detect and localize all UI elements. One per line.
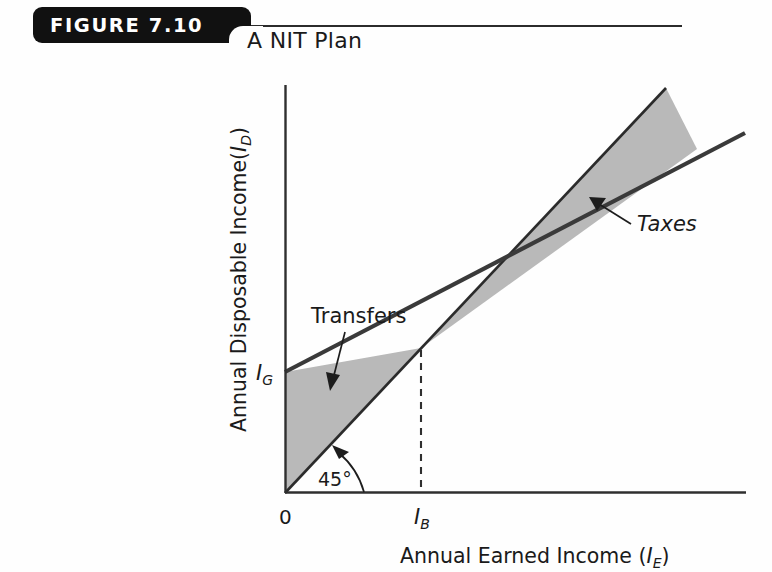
x-axis-title-sub: E (653, 555, 662, 571)
y-axis-tick-ig: IG (256, 361, 273, 388)
x-tick-sub: B (420, 516, 430, 532)
y-axis-title-close: ) (227, 127, 251, 135)
x-axis-title-close: ) (662, 544, 670, 568)
svg-text:IB: IB (414, 505, 430, 532)
svg-text:Annual Disposable Income(ID): Annual Disposable Income(ID) (227, 127, 254, 432)
chart-plot-area: 45° Transfers Taxes Annual Disposable In… (0, 0, 772, 572)
x-axis-tick-ib: IB (414, 505, 430, 532)
angle-label: 45° (318, 468, 352, 490)
y-axis-title: Annual Disposable Income(ID) (227, 127, 254, 432)
x-axis-title: Annual Earned Income (IE) (400, 544, 670, 571)
y-axis-title-text: Annual Disposable Income( (227, 152, 251, 432)
taxes-label: Taxes (637, 212, 697, 236)
svg-text:Annual Earned Income (IE): Annual Earned Income (IE) (400, 544, 670, 571)
x-axis-origin-label: 0 (279, 505, 292, 529)
forty-five-degree-line (285, 88, 666, 493)
y-axis-title-sub: D (238, 135, 254, 146)
transfers-label: Transfers (310, 304, 406, 328)
svg-text:IG: IG (256, 361, 273, 388)
nit-schedule-line (285, 133, 745, 372)
y-tick-sub: G (262, 372, 273, 388)
angle-arrow-head (332, 445, 349, 459)
x-axis-title-text: Annual Earned Income ( (400, 544, 646, 568)
figure-root: FIGURE 7.10 A NIT Plan 45° Transfers Tax… (0, 0, 772, 572)
